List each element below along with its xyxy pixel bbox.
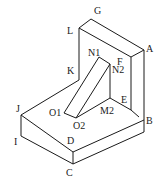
label-O1: O1 — [49, 107, 61, 118]
edge-L-inner-top — [79, 28, 131, 57]
label-N2: N2 — [112, 64, 124, 75]
label-A: A — [146, 43, 154, 54]
edge-L-G-A — [79, 19, 144, 50]
edge-J-D — [21, 115, 73, 152]
edge-I-C — [21, 136, 73, 164]
label-K: K — [67, 65, 75, 76]
label-G: G — [94, 5, 101, 16]
label-J: J — [16, 103, 20, 114]
edge-A-inner-top — [131, 50, 144, 57]
label-M2: M2 — [100, 105, 114, 116]
isometric-diagram: G L A N1 F N2 K E J O1 M2 O2 B I D C — [0, 0, 163, 187]
label-E: E — [121, 94, 127, 105]
label-O2: O2 — [73, 120, 85, 131]
label-B: B — [146, 115, 153, 126]
label-N1: N1 — [88, 47, 100, 58]
label-C: C — [66, 167, 73, 178]
edge-E-inner — [131, 110, 139, 117]
edge-C-B — [73, 132, 144, 164]
label-I: I — [14, 136, 17, 147]
label-L: L — [67, 25, 73, 36]
label-D: D — [67, 135, 74, 146]
